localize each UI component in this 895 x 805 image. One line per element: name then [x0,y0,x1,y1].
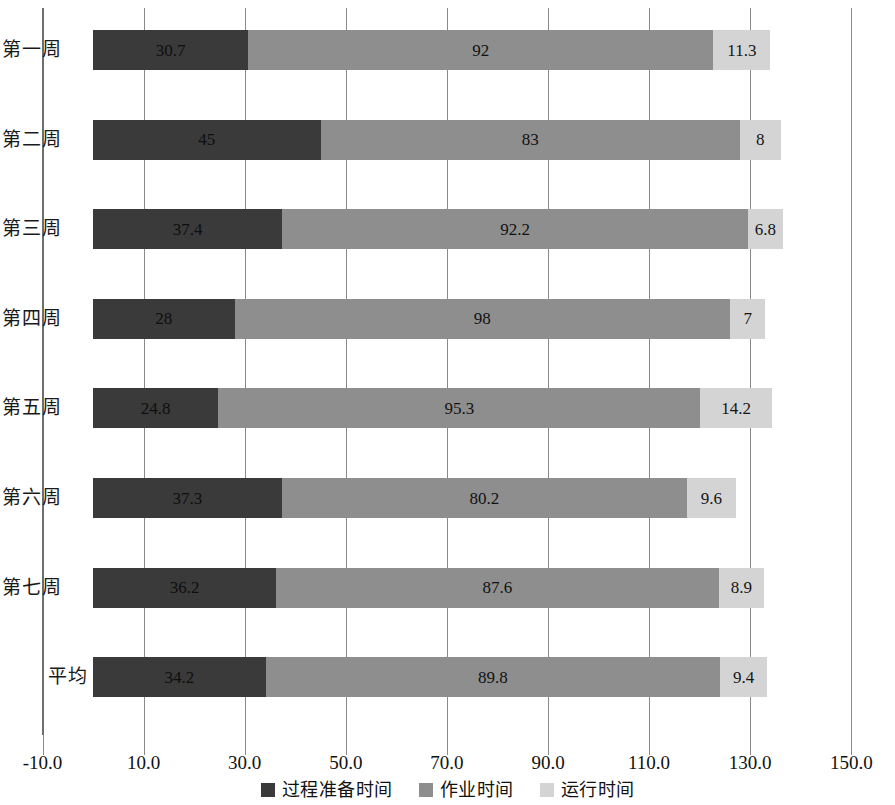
legend-label: 过程准备时间 [282,780,393,800]
bar-segment[interactable]: 34.2 [93,657,266,697]
bar-value-label: 95.3 [444,400,474,417]
bar-segment[interactable]: 24.8 [93,388,218,428]
gridline-70.0 [447,8,448,735]
bar-row: 第二周45838 [0,120,895,160]
bar-segment[interactable]: 9.6 [687,478,736,518]
x-axis-label-0: -10.0 [23,752,63,774]
stacked-bar: 37.380.29.6 [93,478,735,518]
chart-legend: 过程准备时间作业时间运行时间 [0,780,895,800]
x-axis-label-1: 10.0 [127,752,160,774]
stacked-bar: 34.289.89.4 [93,657,767,697]
bar-row: 第七周36.287.68.9 [0,568,895,608]
legend-item-3[interactable]: 运行时间 [540,780,635,800]
legend-swatch-icon [540,783,554,797]
bar-value-label: 37.4 [173,221,203,238]
bar-segment[interactable]: 37.3 [93,478,282,518]
category-label-7: 第七周 [2,568,88,608]
stacked-bar-chart: 第一周30.79211.3第二周45838第三周37.492.26.8第四周28… [0,0,895,805]
legend-label: 运行时间 [561,780,635,800]
bar-value-label: 87.6 [483,579,513,596]
x-axis-label-8: 150.0 [830,752,873,774]
legend-label: 作业时间 [440,780,514,800]
bar-segment[interactable]: 11.3 [713,30,770,70]
bar-value-label: 11.3 [727,42,756,59]
gridline-110.0 [649,8,650,735]
bar-value-label: 34.2 [165,669,195,686]
bar-row: 第五周24.895.314.2 [0,388,895,428]
x-axis-label-2: 30.0 [228,752,261,774]
bar-value-label: 92 [472,42,489,59]
stacked-bar: 24.895.314.2 [93,388,772,428]
bar-segment[interactable]: 87.6 [276,568,719,608]
stacked-bar: 37.492.26.8 [93,209,783,249]
x-axis-label-5: 90.0 [531,752,564,774]
bar-segment[interactable]: 36.2 [93,568,276,608]
gridline-30.0 [245,8,246,735]
bar-segment[interactable]: 45 [93,120,320,160]
category-label-1: 第一周 [2,30,88,70]
category-label-2: 第二周 [2,120,88,160]
bar-value-label: 92.2 [500,221,530,238]
bar-value-label: 9.4 [733,669,754,686]
bar-segment[interactable]: 95.3 [218,388,700,428]
bar-value-label: 6.8 [755,221,776,238]
plot-area: 第一周30.79211.3第二周45838第三周37.492.26.8第四周28… [0,0,895,735]
bar-segment[interactable]: 8.9 [719,568,764,608]
bar-segment[interactable]: 6.8 [748,209,782,249]
gridline-50.0 [346,8,347,735]
legend-item-1[interactable]: 过程准备时间 [261,780,393,800]
gridline--10.0 [42,8,44,735]
x-axis-label-7: 130.0 [729,752,772,774]
bar-segment[interactable]: 8 [740,120,780,160]
gridline-130.0 [750,8,751,735]
category-label-6: 第六周 [2,478,88,518]
category-label-3: 第三周 [2,209,88,249]
category-label-5: 第五周 [2,388,88,428]
bar-segment[interactable]: 37.4 [93,209,282,249]
category-label-8: 平均 [0,657,88,697]
bar-segment[interactable]: 28 [93,299,235,339]
stacked-bar: 45838 [93,120,780,160]
bar-segment[interactable]: 7 [730,299,765,339]
x-axis-label-6: 110.0 [628,752,670,774]
bar-value-label: 83 [522,131,539,148]
gridline-90.0 [548,8,549,735]
stacked-bar: 30.79211.3 [93,30,770,70]
bar-value-label: 80.2 [469,490,499,507]
bar-value-label: 14.2 [721,400,751,417]
bar-value-label: 28 [155,310,172,327]
x-axis-label-4: 70.0 [430,752,463,774]
bar-segment[interactable]: 92.2 [282,209,748,249]
bar-row: 第四周28987 [0,299,895,339]
bar-value-label: 37.3 [172,490,202,507]
stacked-bar: 28987 [93,299,765,339]
category-label-4: 第四周 [2,299,88,339]
legend-item-2[interactable]: 作业时间 [419,780,514,800]
bar-row: 第一周30.79211.3 [0,30,895,70]
bar-row: 平均34.289.89.4 [0,657,895,697]
bar-value-label: 98 [474,310,491,327]
bar-value-label: 9.6 [701,490,722,507]
bar-row: 第三周37.492.26.8 [0,209,895,249]
bar-segment[interactable]: 80.2 [282,478,687,518]
bar-row: 第六周37.380.29.6 [0,478,895,518]
x-axis-labels: -10.010.030.050.070.090.0110.0130.0150.0 [0,752,895,778]
bar-value-label: 89.8 [478,669,508,686]
bar-segment[interactable]: 92 [248,30,713,70]
legend-swatch-icon [261,783,275,797]
bar-segment[interactable]: 89.8 [266,657,720,697]
bar-value-label: 7 [743,310,752,327]
bar-segment[interactable]: 14.2 [700,388,772,428]
bar-segment[interactable]: 9.4 [720,657,768,697]
bar-segment[interactable]: 98 [235,299,730,339]
bar-value-label: 45 [198,131,215,148]
bar-value-label: 8 [756,131,765,148]
stacked-bar: 36.287.68.9 [93,568,764,608]
x-axis-label-3: 50.0 [329,752,362,774]
gridline-150.0 [851,8,852,735]
legend-swatch-icon [419,783,433,797]
bar-value-label: 24.8 [141,400,171,417]
bar-value-label: 30.7 [156,42,186,59]
bar-segment[interactable]: 83 [321,120,741,160]
bar-segment[interactable]: 30.7 [93,30,248,70]
